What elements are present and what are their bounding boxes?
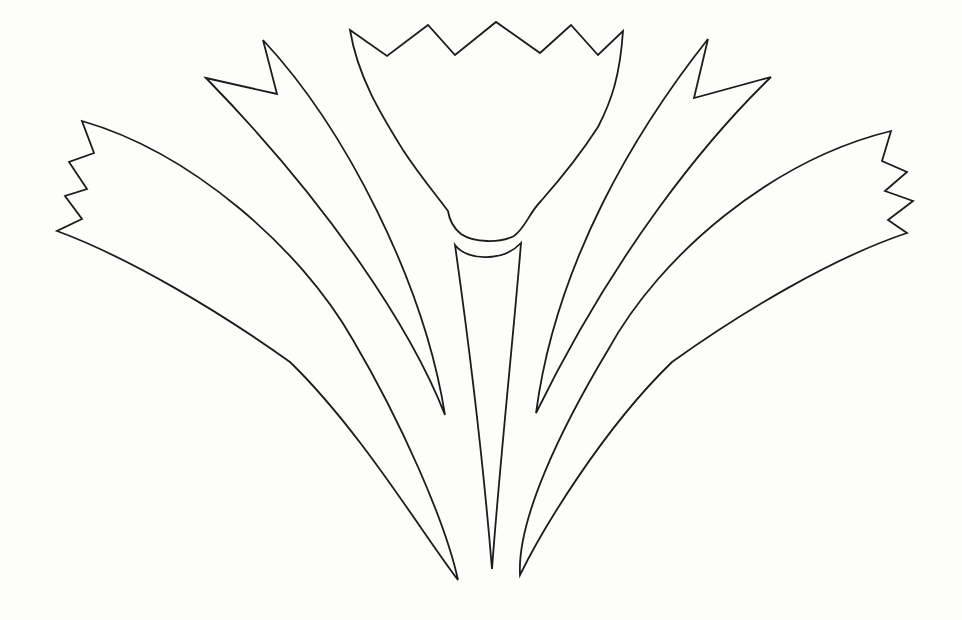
pattern-page (0, 0, 962, 620)
flower-corolla (350, 22, 623, 241)
outer-left-petal (57, 121, 458, 580)
pattern-drawing (0, 0, 962, 620)
inner-left-petal (206, 40, 445, 415)
flower-stem (455, 243, 521, 569)
outer-right-petal (520, 131, 913, 575)
inner-right-petal (536, 39, 771, 413)
